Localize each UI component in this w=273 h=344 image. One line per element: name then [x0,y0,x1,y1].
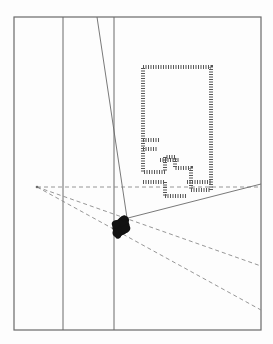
diagonal-line [97,17,127,218]
vertical-lines [63,17,114,330]
frame-rect [14,17,261,330]
hatched-outline-path [143,67,211,190]
dashed-rays [37,187,261,310]
diagram-canvas [0,0,273,344]
apex-point [36,186,39,189]
schematic-drawing [0,0,273,344]
dashed-ray [37,187,261,266]
hatched-outline [143,67,211,196]
frame [14,17,261,330]
diagonal-line-path [97,17,127,218]
dashed-ray [37,187,261,310]
apex-dot [36,186,39,189]
